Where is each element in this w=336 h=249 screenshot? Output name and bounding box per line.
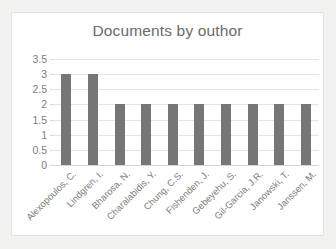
y-tick-label: 0.5	[32, 145, 47, 156]
bar	[168, 104, 178, 165]
y-axis: 3.532.521.510.50	[12, 59, 53, 165]
chart-title: Documents by outhor	[12, 22, 323, 40]
y-tick-label: 2	[41, 99, 47, 110]
plot-area	[53, 59, 319, 165]
bar	[194, 104, 204, 165]
bar	[88, 74, 98, 165]
bar	[115, 104, 125, 165]
y-tick-label: 3	[41, 69, 47, 80]
gridline	[53, 165, 319, 166]
bar	[221, 104, 231, 165]
y-tick-label: 0	[41, 160, 47, 171]
bar	[274, 104, 284, 165]
y-tick-label: 1.5	[32, 114, 47, 125]
bar	[141, 104, 151, 165]
y-tick-label: 2.5	[32, 84, 47, 95]
chart-frame: Documents by outhor 3.532.521.510.50 Ale…	[11, 12, 324, 236]
bar	[61, 74, 71, 165]
y-tick-label: 3.5	[32, 54, 47, 65]
y-tick-label: 1	[41, 129, 47, 140]
bar	[301, 104, 311, 165]
x-axis: Alexopoulos, C.Lindgren, I.Bharosa, N.Ch…	[53, 167, 319, 233]
bar	[248, 104, 258, 165]
gridline	[53, 59, 319, 60]
